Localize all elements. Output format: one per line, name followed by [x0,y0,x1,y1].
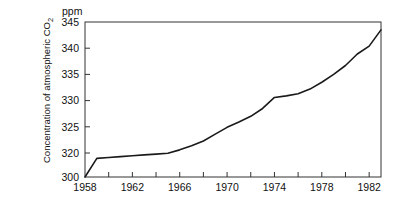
x-tick-label: 1982 [357,181,381,193]
x-tick-label: 1974 [263,181,287,193]
x-axis-tick-labels: 1958196219661970197419781982 [73,181,381,193]
y-axis-title: Concentration of atmospheric CO2 [41,18,55,163]
co2-line-chart: 345340335330325320300 195819621966197019… [0,0,400,197]
y-tick-label: 340 [61,42,79,54]
y-tick-label: 320 [61,147,79,159]
x-tick-label: 1962 [121,181,145,193]
x-tick-label: 1978 [310,181,334,193]
x-tick-label: 1970 [215,181,239,193]
y-tick-label: 345 [61,16,79,28]
y-tick-label: 330 [61,94,79,106]
plot-frame [85,22,381,177]
chart-canvas: 345340335330325320300 195819621966197019… [0,0,400,197]
x-tick-label: 1958 [73,181,97,193]
x-tick-label: 1966 [168,181,192,193]
y-tick-label: 335 [61,68,79,80]
y-tick-label: 325 [61,121,79,133]
y-axis-tick-labels: 345340335330325320300 [61,16,79,183]
y-axis-unit-label: ppm [62,5,83,17]
